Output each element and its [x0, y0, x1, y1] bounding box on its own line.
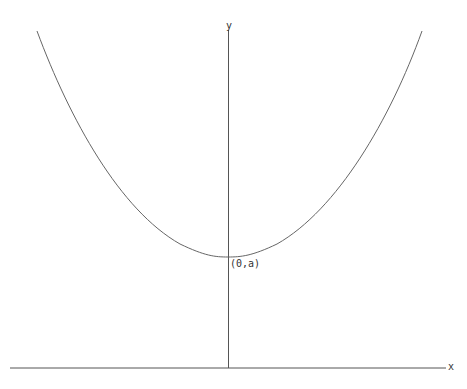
- x-axis-label: x: [448, 361, 454, 372]
- diagram-canvas: y x (0,a): [0, 0, 467, 389]
- vertex-point-label: (0,a): [230, 258, 260, 269]
- y-axis-label: y: [226, 20, 232, 31]
- curve: [37, 31, 422, 257]
